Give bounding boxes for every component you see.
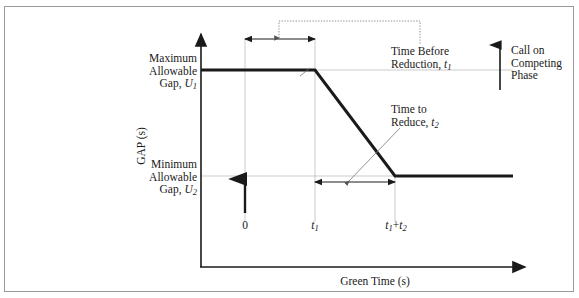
label-maximum-allowable-gap-line3: Gap, U1 <box>104 77 197 92</box>
subscript-2: 2 <box>193 187 197 197</box>
subscript-1: 1 <box>193 81 197 91</box>
annotation-time-to-reduce-line1: Time to <box>391 103 439 116</box>
symbol-u1: U <box>184 77 192 89</box>
annotation-time-before-reduction-line2: Reduction, t1 <box>391 58 451 73</box>
annotation-call-on-competing-phase-line1: Call on <box>511 44 562 57</box>
x-tick-label-origin: 0 <box>225 219 265 232</box>
annotation-time-to-reduce: Time to Reduce, t2 <box>391 103 439 131</box>
label-maximum-allowable-gap-line1: Maximum <box>104 52 197 65</box>
annotation-call-on-competing-phase-line3: Phase <box>511 69 562 82</box>
annotation-time-to-reduce-line2: Reduce, t2 <box>391 116 439 131</box>
gap-reduction-curve <box>201 70 513 176</box>
diagram-canvas <box>0 0 579 298</box>
annotation-call-on-competing-phase: Call on Competing Phase <box>511 44 562 82</box>
label-minimum-allowable-gap-line3: Gap, U2 <box>104 183 197 198</box>
x-tick-label-t1: t1 <box>295 219 335 234</box>
annotation-time-before-reduction: Time Before Reduction, t1 <box>391 45 451 73</box>
label-maximum-allowable-gap-line2: Allowable <box>104 65 197 78</box>
x-axis-title: Green Time (s) <box>310 275 440 288</box>
label-minimum-allowable-gap-line2: Allowable <box>104 171 197 184</box>
label-minimum-allowable-gap-line1: Minimum <box>104 158 197 171</box>
label-minimum-allowable-gap: Minimum Allowable Gap, U2 <box>104 158 197 199</box>
leader-line-time-before-reduction <box>279 21 420 44</box>
annotation-time-before-reduction-line1: Time Before <box>391 45 451 58</box>
annotation-call-on-competing-phase-line2: Competing <box>511 57 562 70</box>
figure-container: GAP (s) Maximum Allowable Gap, U1 Minimu… <box>0 0 579 298</box>
symbol-u2: U <box>184 183 192 195</box>
x-tick-label-t1-plus-t2: t1+t2 <box>370 219 422 234</box>
label-maximum-allowable-gap: Maximum Allowable Gap, U1 <box>104 52 197 93</box>
